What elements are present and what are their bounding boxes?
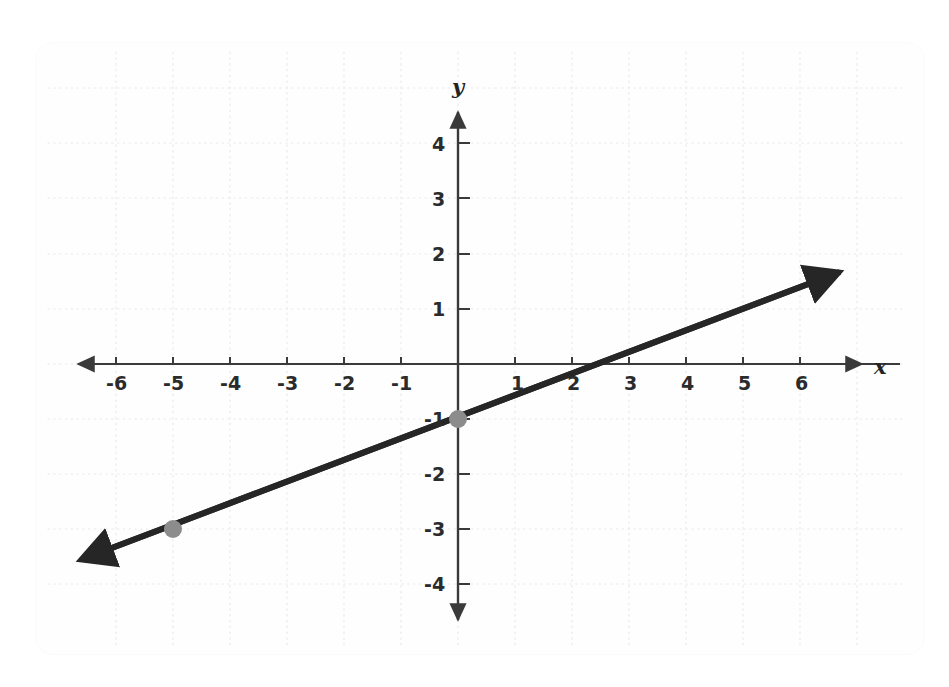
y-tick-label--1: -1	[424, 410, 445, 429]
y-tick-label--2: -2	[424, 465, 445, 484]
x-tick-label--3: -3	[277, 374, 298, 393]
y-tick-label-3: 3	[432, 190, 445, 209]
x-tick-label-1: 1	[511, 374, 524, 393]
y-tick-label-2: 2	[432, 245, 445, 264]
y-tick-label-4: 4	[432, 135, 445, 154]
x-tick-label--6: -6	[106, 374, 127, 393]
y-tick-label--4: -4	[424, 575, 445, 594]
grid-lines	[48, 52, 905, 645]
x-tick-label-3: 3	[624, 374, 637, 393]
coordinate-plane-svg	[0, 0, 949, 687]
x-tick-label--4: -4	[220, 374, 241, 393]
x-axis-label: x	[874, 356, 887, 377]
x-tick-label--2: -2	[334, 374, 355, 393]
x-tick-label-5: 5	[738, 374, 751, 393]
x-tick-label-6: 6	[795, 374, 808, 393]
y-tick-label-1: 1	[432, 300, 445, 319]
plot-point-y-intercept	[449, 410, 467, 428]
x-tick-label-2: 2	[567, 374, 580, 393]
plot-point-second	[164, 520, 182, 538]
chart-canvas: -6 -5 -4 -3 -2 -1 1 2 3 4 5 6 4 3 2 1 -1…	[0, 0, 949, 687]
y-axis-label: y	[452, 76, 464, 97]
x-tick-label--5: -5	[163, 374, 184, 393]
y-tick-label--3: -3	[424, 520, 445, 539]
x-tick-label-4: 4	[681, 374, 694, 393]
x-tick-label--1: -1	[391, 374, 412, 393]
